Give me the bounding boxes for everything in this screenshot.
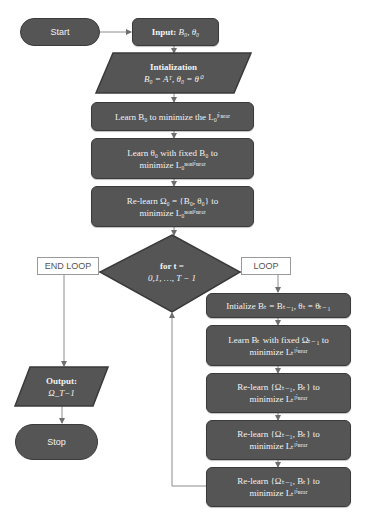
loop-step-learn-bt: Learn Bₜ with fixed Ωₜ₋₁ to minimize Lₜˡ… [206, 325, 351, 366]
init-title: Intialization [150, 61, 197, 73]
start-terminal: Start [20, 18, 100, 46]
output-title: Output: [46, 375, 77, 387]
loop-decision-text: for t = 0,1, …, T − 1 [120, 255, 224, 289]
input-box: Input: B₀, θ₀ [132, 18, 219, 46]
input-title: Input: [152, 26, 177, 38]
end-loop-label: END LOOP [37, 257, 99, 275]
loop-step-4-line2: minimize Lₜˡⁱⁿᵉᵃʳ [250, 440, 308, 452]
loop-step-5-line2: minimize Lₜˡⁱⁿᵉᵃʳ [250, 487, 308, 499]
start-label: Start [50, 26, 69, 38]
step-learn-theta0: Learn θ₀ with fixed B₀ to minimize L₀ⁿᵒⁿ… [91, 138, 254, 179]
loop-decision-line2: 0,1, …, T − 1 [148, 272, 196, 284]
loop-step-3-line2: minimize Lₜˡⁱⁿᵉᵃʳ [250, 393, 308, 405]
loop-decision-line1: for t = [160, 260, 184, 272]
connector-decision-output [64, 272, 100, 366]
loop-step-2-line1: Learn Bₜ with fixed Ωₜ₋₁ to [228, 334, 329, 346]
step-relearn-omega0-line2: minimize L₀ⁿᵒⁿˡⁱⁿᵉᵃʳ [139, 207, 205, 219]
loop-step-relearn-1: Re-learn {Ωₜ₋₁, Bₜ} to minimize Lₜˡⁱⁿᵉᵃʳ [206, 373, 351, 413]
connector-decision-loop [240, 272, 278, 292]
init-formula: B₀ = Aᵀ, θ₀ = θ⁰ [144, 73, 203, 85]
input-value: B₀, θ₀ [179, 26, 200, 38]
loop-step-2-line2: minimize Lₜˡⁱⁿᵉᵃʳ [250, 346, 308, 358]
step-learn-theta0-line1: Learn θ₀ with fixed B₀ to [127, 147, 217, 159]
step-learn-theta0-line2: minimize L₀ⁿᵒⁿˡⁱⁿᵉᵃʳ [139, 159, 205, 171]
step-relearn-omega0-line1: Re-learn Ω₀ = {B₀, θ₀} to [127, 195, 219, 207]
init-text: Intialization B₀ = Aᵀ, θ₀ = θ⁰ [96, 53, 251, 93]
loop-step-3-line1: Re-learn {Ωₜ₋₁, Bₜ} to [237, 381, 319, 393]
loop-label: LOOP [241, 257, 291, 275]
loop-step-initialize: Intialize Bₜ = Bₜ₋₁, θₜ = θₜ₋₁ [206, 293, 351, 318]
output-value: Ω_T−1 [48, 387, 75, 399]
step-learn-b0-text: Learn B₀ to minimize the L₀ˡⁱⁿᵉᵃʳ [115, 111, 230, 123]
stop-terminal: Stop [15, 424, 98, 460]
loop-step-relearn-2: Re-learn {Ωₜ₋₁, Bₜ} to minimize Lₜˡⁱⁿᵉᵃʳ [206, 420, 351, 460]
loop-step-1-line1: Intialize Bₜ = Bₜ₋₁, θₜ = θₜ₋₁ [226, 300, 330, 312]
step-learn-b0: Learn B₀ to minimize the L₀ˡⁱⁿᵉᵃʳ [91, 102, 254, 131]
loop-step-4-line1: Re-learn {Ωₜ₋₁, Bₜ} to [237, 428, 319, 440]
output-text: Output: Ω_T−1 [15, 367, 108, 406]
connector-loop-back [172, 313, 206, 486]
loop-step-5-line1: Re-learn {Ωₜ₋₁, Bₜ} to [237, 475, 319, 487]
stop-label: Stop [47, 436, 66, 448]
loop-step-relearn-3: Re-learn {Ωₜ₋₁, Bₜ} to minimize Lₜˡⁱⁿᵉᵃʳ [206, 467, 351, 507]
step-relearn-omega0: Re-learn Ω₀ = {B₀, θ₀} to minimize L₀ⁿᵒⁿ… [91, 186, 254, 227]
